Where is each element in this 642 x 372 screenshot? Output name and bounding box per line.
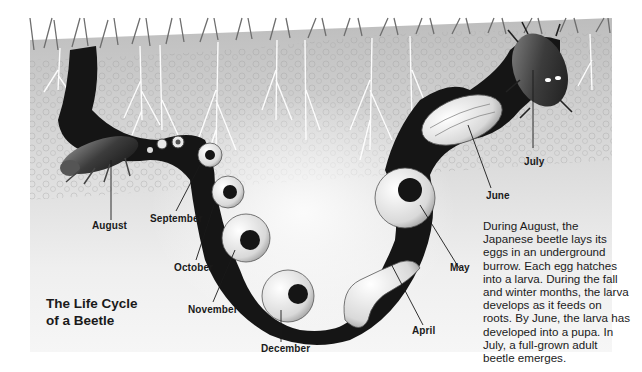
label-september: September [150,213,203,224]
label-july: July [524,156,544,167]
larva-october [212,176,244,208]
label-october: October [174,262,213,273]
larva-september [198,143,222,167]
title-line-2: of a Beetle [46,312,176,329]
figure-caption: During August, the Japanese beetle lays … [483,219,631,364]
label-june: June [486,190,510,201]
beetle-life-cycle-figure: August September October November Decemb… [0,0,642,372]
label-november: November [188,304,238,315]
label-april: April [412,325,435,336]
label-december: December [261,343,310,354]
larva-may [375,168,435,228]
larva-december [262,270,314,322]
title-line-1: The Life Cycle [46,295,176,312]
label-august: August [92,220,127,231]
label-may: May [450,262,470,273]
caption-text: During August, the Japanese beetle lays … [483,219,631,364]
larva-november [222,214,270,262]
figure-title: The Life Cycle of a Beetle [46,295,176,329]
